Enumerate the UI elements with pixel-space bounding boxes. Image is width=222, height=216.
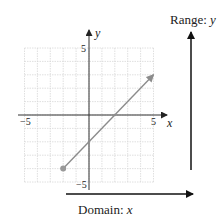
range-label: Range: y (170, 13, 216, 26)
closed-endpoint-dot (60, 166, 66, 172)
y-tick-max: 5 (81, 44, 86, 54)
domain-prefix: Domain: (78, 202, 127, 216)
function-line (63, 75, 153, 169)
range-prefix: Range: (170, 12, 210, 27)
x-tick-max: 5 (151, 117, 156, 127)
range-var: y (210, 12, 216, 27)
x-tick-min: −5 (20, 117, 31, 127)
y-tick-min: −5 (76, 180, 87, 190)
graph-canvas (0, 0, 222, 216)
x-axis-label: x (167, 117, 172, 129)
domain-label: Domain: x (78, 203, 133, 216)
domain-var: x (127, 202, 133, 216)
y-axis-label: y (95, 27, 100, 39)
